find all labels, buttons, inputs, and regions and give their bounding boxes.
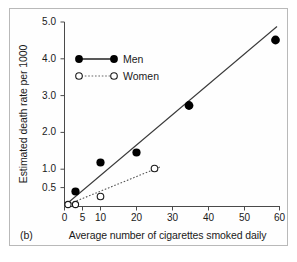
data-point-men <box>271 36 280 45</box>
y-axis-title: Estimated death rate per 1000 <box>17 29 29 199</box>
x-tick-label: 50 <box>233 212 257 223</box>
y-tick-label: 5.0 <box>28 16 56 27</box>
x-tick-label: 30 <box>161 212 185 223</box>
data-point-women <box>65 201 71 207</box>
x-tick-label: 60 <box>268 212 292 223</box>
legend-label-men: Men <box>123 53 143 65</box>
x-tick-label: 20 <box>125 212 149 223</box>
data-point-women <box>72 201 78 207</box>
data-point-women <box>151 165 158 172</box>
y-tick-label: 2.0 <box>28 126 56 137</box>
women-fit-line <box>67 167 160 205</box>
legend-women-sample <box>76 73 118 80</box>
chart-figure: 5.0 4.0 3.0 2.0 1.0 0.5 0 5 10 20 30 40 … <box>0 0 297 262</box>
y-tick-label: 0.5 <box>28 182 56 193</box>
data-point-men <box>132 148 140 156</box>
data-point-men <box>185 101 194 110</box>
data-point-men <box>96 158 104 166</box>
panel-tag-label: (b) <box>20 229 33 241</box>
y-tick-label: 4.0 <box>28 53 56 64</box>
legend-men-sample <box>75 55 118 63</box>
x-tick-label: 10 <box>89 212 113 223</box>
y-tick-label: 3.0 <box>28 90 56 101</box>
men-fit-line <box>66 27 277 205</box>
y-tick-marks <box>61 22 65 188</box>
x-axis-title: Average number of cigarettes smoked dail… <box>60 229 275 241</box>
y-tick-label: 1.0 <box>28 163 56 174</box>
legend-label-women: Women <box>123 70 159 82</box>
data-point-men <box>71 187 79 195</box>
data-point-women <box>97 193 104 200</box>
x-tick-label: 40 <box>197 212 221 223</box>
x-tick-marks <box>65 207 280 211</box>
